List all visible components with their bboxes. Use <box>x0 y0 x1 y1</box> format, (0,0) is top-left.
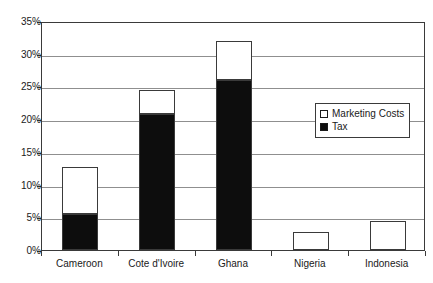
bar-segment-marketing-costs <box>139 90 175 114</box>
y-axis-tick-label: 10% <box>7 181 41 191</box>
legend-item-marketing-costs: Marketing Costs <box>320 108 404 120</box>
bar-segment-marketing-costs <box>216 41 252 80</box>
x-axis-tick-mark <box>271 251 272 256</box>
y-axis-tick-label: 0% <box>7 246 41 256</box>
bar-segment-marketing-costs <box>293 232 329 250</box>
bar <box>62 167 98 250</box>
legend-label-marketing-costs: Marketing Costs <box>332 109 404 119</box>
x-axis-tick-mark <box>348 251 349 256</box>
x-axis-tick-label: Ghana <box>195 258 272 269</box>
y-axis-tick-label: 25% <box>7 82 41 92</box>
bar <box>293 232 329 250</box>
bar-group <box>42 23 119 250</box>
x-axis-tick-mark <box>195 251 196 256</box>
y-axis-tick-label: 5% <box>7 213 41 223</box>
x-axis-tick-mark <box>425 251 426 256</box>
bar-group <box>119 23 196 250</box>
legend-label-tax: Tax <box>332 122 348 132</box>
y-axis-tick-label: 35% <box>7 17 41 27</box>
bar-segment-tax <box>216 80 252 250</box>
x-axis-tick-mark <box>41 251 42 256</box>
bar <box>216 41 252 250</box>
bar-group <box>196 23 273 250</box>
legend-item-tax: Tax <box>320 121 404 133</box>
y-axis-tick-label: 15% <box>7 148 41 158</box>
legend-swatch-marketing-costs <box>320 110 328 118</box>
y-axis-tick-label: 30% <box>7 50 41 60</box>
x-axis-tick-label: Cameroon <box>41 258 118 269</box>
x-axis-tick-label: Indonesia <box>348 258 425 269</box>
bar <box>139 90 175 250</box>
bar-segment-tax <box>139 114 175 250</box>
legend-swatch-tax <box>320 123 328 131</box>
y-axis-tick-label: 20% <box>7 115 41 125</box>
bar-segment-marketing-costs <box>62 167 98 214</box>
bar-segment-tax <box>62 214 98 250</box>
x-axis-tick-label: Nigeria <box>271 258 348 269</box>
chart-legend: Marketing Costs Tax <box>315 103 410 138</box>
bar-segment-marketing-costs <box>370 221 406 250</box>
y-axis: 0%5%10%15%20%25%30%35% <box>0 0 41 283</box>
stacked-bar-chart: 0%5%10%15%20%25%30%35% Marketing Costs T… <box>0 0 433 283</box>
bar <box>370 221 406 250</box>
x-axis-tick-label: Cote d'Ivoire <box>118 258 195 269</box>
x-axis-tick-mark <box>118 251 119 256</box>
